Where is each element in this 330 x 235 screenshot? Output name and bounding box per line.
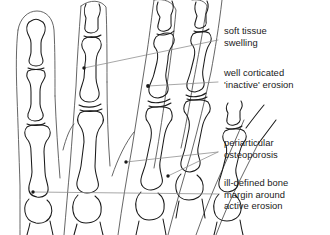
label-ill-defined-bone-margin-line1: ill-defined bone — [224, 177, 288, 188]
label-well-corticated-erosion-line2: 'inactive' erosion — [224, 79, 294, 90]
marker-well-corticated-erosion — [146, 84, 150, 88]
label-periarticular-osteoporosis-line2: osteoporosis — [224, 149, 278, 160]
label-soft-tissue-swelling-line1: soft tissue — [224, 25, 267, 36]
label-ill-defined-bone-margin-line3: active erosion — [224, 200, 283, 211]
marker-periarticular-osteoporosis-2 — [166, 174, 169, 177]
marker-ill-defined-bone-margin — [31, 190, 34, 193]
marker-soft-tissue-swelling — [82, 66, 85, 69]
label-periarticular-osteoporosis-line1: periarticular — [224, 137, 274, 148]
label-ill-defined-bone-margin-line2: margin around — [224, 189, 285, 200]
hand-radiograph-figure: soft tissue swelling well corticated 'in… — [0, 0, 330, 235]
marker-periarticular-osteoporosis — [124, 160, 127, 163]
label-well-corticated-erosion-line1: well corticated — [223, 67, 284, 78]
annotation-ill-defined-bone-margin: ill-defined bone margin around active er… — [224, 177, 288, 211]
annotation-periarticular-osteoporosis: periarticular osteoporosis — [224, 137, 278, 160]
annotation-well-corticated-inactive-erosion: well corticated 'inactive' erosion — [223, 67, 294, 90]
label-soft-tissue-swelling-line2: swelling — [224, 37, 258, 48]
hand-diagram-svg: soft tissue swelling well corticated 'in… — [0, 0, 330, 235]
